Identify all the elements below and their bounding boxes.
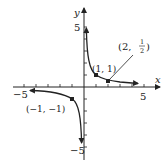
point-label-neg1: (−1, −1) — [26, 104, 65, 114]
graph: x y 5 −5 5 −5 (1, 1) (−1, −1) (2, 1 2 ) — [0, 0, 168, 163]
point-label-1-1: (1, 1) — [92, 64, 116, 74]
svg-text:): ) — [146, 41, 150, 52]
svg-text:1: 1 — [140, 38, 144, 46]
y-axis-label: y — [73, 7, 80, 18]
y-tick-label-neg5: −5 — [70, 145, 85, 156]
curve-negative-branch — [72, 99, 82, 143]
point-neg1-neg1 — [70, 97, 74, 101]
svg-text:(2,: (2, — [118, 41, 131, 52]
x-tick-label-neg5: −5 — [13, 89, 28, 100]
curve-negative-branch-left — [30, 91, 72, 100]
x-tick-label-5: 5 — [140, 91, 146, 102]
svg-text:2: 2 — [140, 47, 144, 55]
y-tick-label-5: 5 — [74, 22, 80, 33]
x-axis-label: x — [155, 74, 161, 85]
point-label-2-half: (2, 1 2 ) — [118, 38, 150, 55]
